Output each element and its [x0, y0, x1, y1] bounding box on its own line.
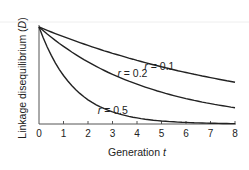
series-label: r = 0.5 — [98, 104, 128, 116]
x-tick-label: 0 — [36, 128, 42, 139]
series-labels: r = 0.1r = 0.2r = 0.5 — [98, 60, 175, 117]
x-tick-label: 6 — [183, 128, 189, 139]
x-axis-label: Generation t — [108, 146, 167, 158]
x-tick-label: 5 — [159, 128, 165, 139]
y-axis-label: Linkage disequilibrium (D) — [16, 17, 28, 138]
x-tick-label: 2 — [85, 128, 91, 139]
x-tick-label: 7 — [208, 128, 214, 139]
series-label: r = 0.2 — [117, 67, 147, 79]
x-tick-label: 8 — [232, 128, 238, 139]
x-tick-label: 3 — [110, 128, 116, 139]
series-label: r = 0.1 — [144, 60, 174, 72]
axes: 012345678 — [36, 25, 238, 139]
linkage-disequilibrium-chart: 012345678 r = 0.1r = 0.2r = 0.5 Generati… — [0, 0, 249, 170]
x-tick-label: 1 — [61, 128, 67, 139]
x-tick-label: 4 — [134, 128, 140, 139]
